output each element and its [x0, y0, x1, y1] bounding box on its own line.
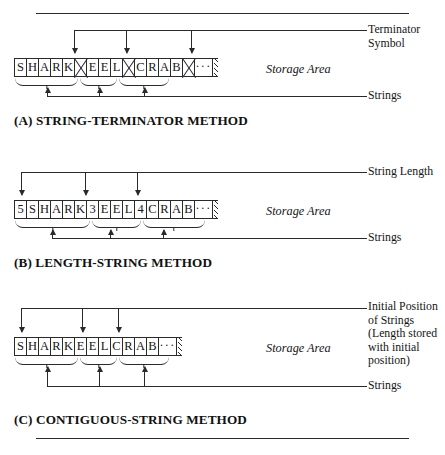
- string-arrow-2: [99, 88, 100, 97]
- storage-cells-b: 5 S H A R K 3 E E L 4 C R A B ···: [14, 200, 218, 219]
- length-arrow-2: [85, 172, 86, 195]
- strings-label-b: Strings: [368, 231, 401, 245]
- initial-position-arrow-3: [118, 308, 119, 332]
- terminator-arrow-2: [126, 30, 127, 53]
- bottom-divider-rule: [36, 438, 409, 439]
- strings-label-rail: [52, 238, 367, 239]
- ragged-edge: [211, 58, 218, 77]
- string-brace: [15, 78, 78, 86]
- caption-c: (C) CONTIGUOUS-STRING METHOD: [14, 412, 247, 428]
- strings-label-a: Strings: [368, 89, 401, 103]
- string-arrow-2: [99, 367, 100, 387]
- string-arrow-1: [47, 88, 48, 97]
- terminator-cell: [122, 58, 135, 77]
- string-arrow-3: [163, 230, 164, 239]
- string-length-label-rail: [21, 172, 367, 173]
- storage-cells-a: S H A R K E E L C R A B ···: [14, 58, 218, 77]
- initial-position-label: Initial Position of Strings (Length stor…: [368, 300, 438, 368]
- caption-b: (B) LENGTH-STRING METHOD: [14, 255, 212, 271]
- string-brace: [119, 357, 169, 365]
- string-arrow-2: [110, 230, 111, 239]
- terminator-symbol-label: Terminator Symbol: [368, 23, 420, 50]
- terminator-cell: [182, 58, 195, 77]
- storage-area-label-a: Storage Area: [266, 62, 331, 77]
- initial-position-label-rail: [21, 308, 367, 309]
- storage-cells-c: S H A R K E E L C R A B ···: [14, 337, 182, 356]
- initial-position-arrow-2: [82, 308, 83, 332]
- terminator-arrow-3: [191, 30, 192, 53]
- string-arrow-3: [144, 88, 145, 97]
- length-arrow-3: [137, 172, 138, 195]
- string-brace: [15, 357, 78, 365]
- terminator-arrow-1: [74, 30, 75, 53]
- string-brace: [15, 220, 90, 228]
- length-arrow-1: [21, 172, 22, 195]
- string-brace: [80, 78, 117, 86]
- string-arrow-1: [47, 367, 48, 387]
- strings-label-rail: [47, 386, 367, 387]
- caption-a: (A) STRING-TERMINATOR METHOD: [14, 113, 248, 129]
- terminator-cell: [74, 58, 87, 77]
- string-arrow-1: [52, 230, 53, 239]
- ragged-edge: [211, 200, 218, 219]
- initial-position-arrow-1: [21, 308, 22, 332]
- strings-label-rail: [47, 96, 367, 97]
- storage-area-label-c: Storage Area: [266, 341, 331, 356]
- string-brace: [92, 220, 141, 228]
- storage-area-label-b: Storage Area: [266, 204, 331, 219]
- string-arrow-3: [144, 367, 145, 387]
- string-storage-methods-figure: Terminator Symbol S H A R K E E L C R A …: [0, 0, 445, 455]
- ragged-edge: [175, 337, 182, 356]
- string-length-label: String Length: [368, 165, 433, 179]
- strings-label-c: Strings: [368, 379, 401, 393]
- string-brace: [119, 78, 169, 86]
- terminator-label-rail: [74, 30, 367, 31]
- string-brace: [80, 357, 117, 365]
- string-brace: [143, 220, 205, 228]
- top-divider-rule: [36, 13, 409, 14]
